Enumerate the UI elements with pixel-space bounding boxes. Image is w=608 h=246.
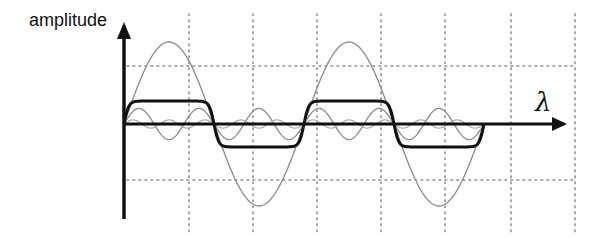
chart-canvas <box>0 0 608 246</box>
axes <box>117 22 567 219</box>
y-axis-label: amplitude <box>29 9 107 31</box>
y-axis-arrow-icon <box>117 22 131 39</box>
x-axis-arrow-icon <box>552 117 567 131</box>
x-axis-label: λ <box>535 87 551 117</box>
